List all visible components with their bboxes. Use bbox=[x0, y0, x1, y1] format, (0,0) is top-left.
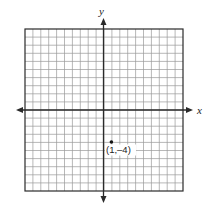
x-axis-left-arrow-icon bbox=[16, 107, 23, 113]
x-axis-label: x bbox=[196, 104, 202, 116]
y-axis-down-arrow-icon bbox=[101, 196, 107, 203]
point-label: (1,–4) bbox=[106, 144, 131, 155]
y-axis-label: y bbox=[98, 5, 104, 17]
y-axis-up-arrow-icon bbox=[101, 18, 107, 25]
coordinate-plane: x y (1,–4) bbox=[0, 0, 211, 210]
x-axis-right-arrow-icon bbox=[186, 107, 193, 113]
